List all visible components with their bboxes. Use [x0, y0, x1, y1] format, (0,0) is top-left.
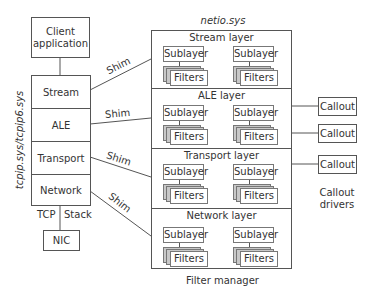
- stack-layer-stream: Stream: [32, 76, 90, 109]
- filters-box: Filters: [170, 188, 208, 204]
- netio-filter-engine: Stream layer Sublayer Filters Sublayer F…: [151, 30, 292, 269]
- callout-box-1: Callout: [318, 97, 357, 116]
- filters-box: Filters: [240, 188, 278, 204]
- netio-layer-ale: ALE layer Sublayer Filters Sublayer Filt…: [152, 88, 291, 148]
- callout-drivers-caption-1: Callout: [315, 187, 359, 199]
- stack-layer-ale: ALE: [32, 108, 90, 141]
- tcp-label: TCP: [37, 209, 56, 221]
- sublayer-box: Sublayer: [233, 227, 274, 243]
- netio-layer-network: Network layer Sublayer Filters Sublayer …: [152, 208, 291, 268]
- sublayer-box: Sublayer: [233, 164, 274, 180]
- sublayer-box: Sublayer: [163, 164, 204, 180]
- callout-box-2: Callout: [318, 124, 357, 143]
- filters-box: Filters: [240, 129, 278, 145]
- callout-label: Callout: [320, 159, 355, 170]
- callout-label: Callout: [320, 101, 355, 112]
- sublayer-box: Sublayer: [163, 227, 204, 243]
- filters-box: Filters: [170, 129, 208, 145]
- filters-box: Filters: [170, 251, 208, 267]
- callout-box-3: Callout: [318, 155, 357, 174]
- shim-label-2: Shim: [105, 107, 131, 121]
- client-application-label-2: application: [33, 38, 88, 50]
- filters-box: Filters: [240, 251, 278, 267]
- netio-title: netio.sys: [198, 15, 248, 27]
- layer-title: Stream layer: [152, 32, 291, 44]
- filter-manager-caption: Filter manager: [186, 275, 258, 287]
- filters-box: Filters: [240, 70, 278, 86]
- client-application-box: Client application: [31, 17, 90, 58]
- sublayer-box: Sublayer: [163, 46, 204, 62]
- layer-title: Transport layer: [152, 150, 291, 162]
- tcpip-stack: Stream ALE Transport Network: [31, 75, 91, 206]
- stack-layer-label: Network: [40, 185, 82, 196]
- sublayer-box: Sublayer: [233, 105, 274, 121]
- stack-layer-transport: Transport: [32, 141, 90, 174]
- stack-layer-network: Network: [32, 174, 90, 206]
- layer-title: ALE layer: [152, 90, 291, 102]
- stack-layer-label: Stream: [43, 87, 79, 98]
- stack-label: Stack: [64, 209, 92, 221]
- callout-drivers-caption-2: drivers: [315, 199, 359, 211]
- stack-layer-label: Transport: [38, 153, 85, 164]
- netio-layer-transport: Transport layer Sublayer Filters Sublaye…: [152, 148, 291, 208]
- filters-box: Filters: [170, 70, 208, 86]
- nic-label: NIC: [53, 235, 70, 246]
- sublayer-box: Sublayer: [233, 46, 274, 62]
- layer-title: Network layer: [152, 210, 291, 222]
- nic-box: NIC: [43, 230, 80, 251]
- client-application-label-1: Client: [46, 26, 75, 38]
- sublayer-box: Sublayer: [163, 105, 204, 121]
- callout-label: Callout: [320, 128, 355, 139]
- tcpip-side-label: tcpip.sys/tcpip6.sys: [14, 90, 26, 190]
- stack-layer-label: ALE: [52, 120, 71, 131]
- netio-layer-stream: Stream layer Sublayer Filters Sublayer F…: [152, 31, 291, 89]
